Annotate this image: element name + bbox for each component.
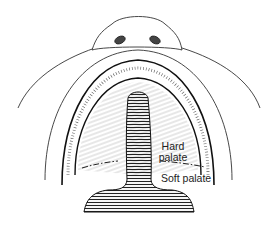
hard-palate-label-line2: palate bbox=[158, 152, 188, 163]
palate-drawing bbox=[0, 0, 277, 226]
soft-palate-label: Soft palate bbox=[161, 173, 211, 184]
hard-palate-label: Hard palate bbox=[158, 141, 188, 163]
nose bbox=[92, 17, 182, 51]
palate-illustration: Hard palate Soft palate bbox=[0, 0, 277, 226]
